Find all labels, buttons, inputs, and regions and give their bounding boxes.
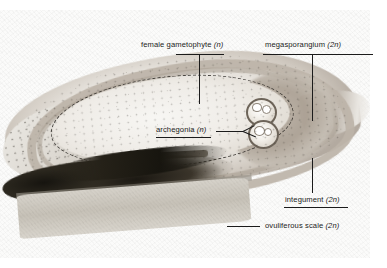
megasporangium-tissue xyxy=(219,61,349,178)
label-archegonia-name: archegonia xyxy=(156,125,195,134)
central-tissue-rod xyxy=(160,150,208,160)
ovuliferous-scale-edge xyxy=(16,175,252,199)
label-integument-name: integument xyxy=(285,195,324,204)
ovule-left-lobe xyxy=(0,96,117,191)
micrograph-figure: female gametophyte (n) megasporangium (2… xyxy=(0,0,387,268)
underline-integument xyxy=(284,207,348,208)
underline-female-gametophyte xyxy=(176,54,224,55)
archegonium-egg-cell xyxy=(254,126,265,136)
female-gametophyte-tissue xyxy=(49,68,293,172)
tissue-granulation xyxy=(11,42,352,203)
underline-archegonia xyxy=(156,137,211,138)
ovule-body xyxy=(0,37,366,203)
dark-stained-tissue-band-secondary xyxy=(47,139,229,187)
archegonium-upper xyxy=(246,98,277,127)
gametophyte-boundary-dashed xyxy=(47,66,298,177)
underline-megasporangium xyxy=(263,54,373,55)
micropyle-tip xyxy=(295,80,370,142)
label-ovuliferous-scale-ploidy: (2n) xyxy=(325,221,339,230)
label-integument: integument (2n) xyxy=(285,196,340,204)
dark-stained-tissue-band xyxy=(1,146,236,210)
label-integument-ploidy: (2n) xyxy=(326,195,340,204)
label-megasporangium-ploidy: (2n) xyxy=(327,40,341,49)
label-female-gametophyte-ploidy: (n) xyxy=(214,40,224,49)
archegonium-egg-cell xyxy=(252,103,262,112)
leader-female-gametophyte xyxy=(199,54,200,104)
label-female-gametophyte: female gametophyte (n) xyxy=(141,41,223,49)
leader-integument xyxy=(312,158,313,193)
label-archegonia: archegonia (n) xyxy=(156,126,206,134)
label-ovuliferous-scale: ovuliferous scale (2n) xyxy=(265,222,339,230)
ovuliferous-scale-tissue xyxy=(17,177,252,239)
label-megasporangium: megasporangium (2n) xyxy=(265,41,341,49)
label-female-gametophyte-name: female gametophyte xyxy=(141,40,212,49)
label-archegonia-ploidy: (n) xyxy=(197,125,207,134)
archegonium-egg-cell xyxy=(264,128,272,136)
leader-archegonia xyxy=(216,131,243,132)
leader-ovuliferous-scale xyxy=(227,226,260,227)
archegonium-egg-cell xyxy=(262,105,271,114)
label-megasporangium-name: megasporangium xyxy=(265,40,325,49)
leader-megasporangium xyxy=(312,54,313,121)
label-ovuliferous-scale-name: ovuliferous scale xyxy=(265,221,323,230)
